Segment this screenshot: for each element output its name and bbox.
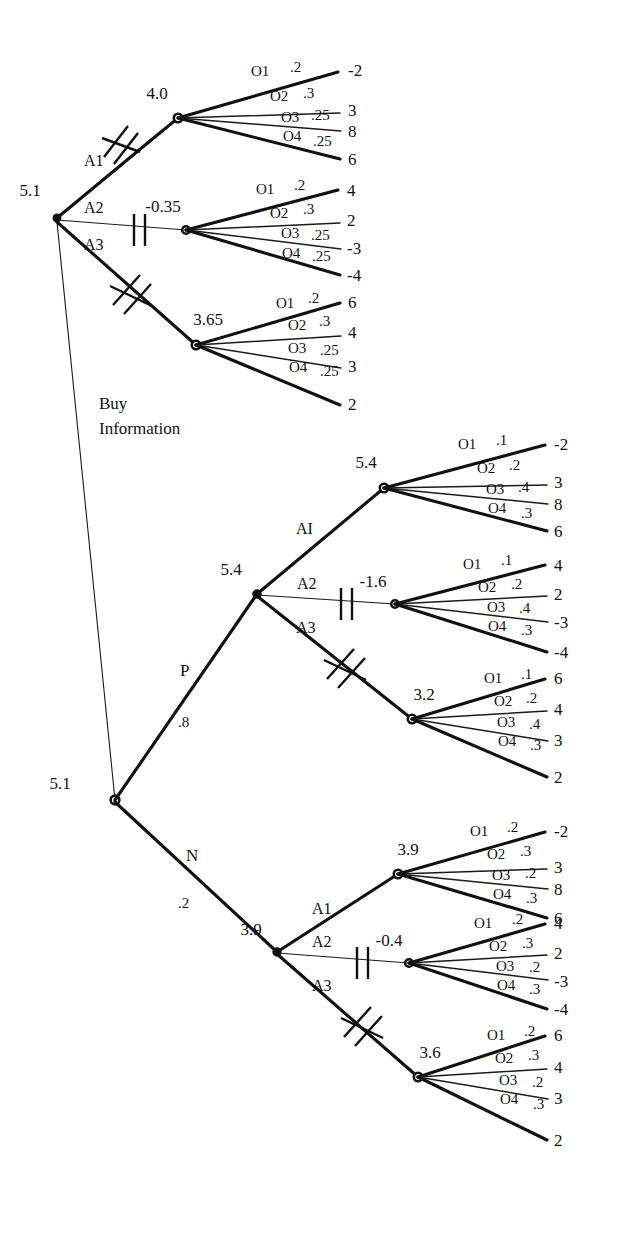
ev-label-p-a1-chance: 5.4 [355,453,377,472]
action-label-p-a1: AI [296,520,313,537]
outcome-label-n-a2-o2: O2 [489,938,507,954]
branch-state-p[interactable] [115,594,257,800]
branch-top-a2[interactable] [57,220,186,230]
prob-label-p-a1-o4: .3 [521,505,532,521]
payoff-top-a2-o2: 2 [347,211,356,230]
outcome-label-n-a3-o1: O1 [487,1027,505,1043]
outcome-label-top-a2-o2: O2 [270,205,288,221]
prob-label-n-a1-o2: .3 [520,843,531,859]
payoff-n-a2-o1: 4 [554,914,563,933]
payoff-top-a1-o4: 6 [348,150,357,169]
payoff-p-a1-o4: 6 [554,522,563,541]
prob-label-n-a2-o2: .3 [522,935,533,951]
payoff-p-a2-o2: 2 [554,585,563,604]
branch-n-a3[interactable] [277,954,418,1077]
outcome-label-n-a1-o3: O3 [492,867,510,883]
ev-label-p-decision: 5.4 [220,560,242,579]
prob-label-p-a1-o1: .1 [496,432,507,448]
payoff-top-a1-o1: -2 [348,61,362,80]
payoff-n-a1-o1: -2 [554,822,568,841]
branch-p-a2[interactable] [257,595,395,604]
state-label-n: N [186,846,198,865]
ev-label-n-decision: 3.9 [240,920,261,939]
outcome-branch-n-a2-o4[interactable] [409,963,547,1009]
outcome-label-p-a3-o1: O1 [484,670,502,686]
outcome-branch-p-a3-o4[interactable] [412,719,547,777]
prob-label-n-a3-o2: .3 [528,1047,539,1063]
outcome-label-p-a3-o4: O4 [498,733,517,749]
outcome-label-n-a2-o3: O3 [496,958,514,974]
root-trunk: Buy Information 5.1 [49,222,180,804]
prob-label-top-a3-o4: .25 [320,363,339,379]
outcome-label-top-a3-o1: O1 [276,295,294,311]
outcome-label-top-a1-o2: O2 [270,88,288,104]
payoff-top-a3-o4: 2 [348,395,357,414]
action-label-top-a3: A3 [84,236,104,253]
prob-label-p-a3-o1: .1 [521,666,532,682]
prune-mark-top-a1 [102,126,140,164]
prob-label-top-a2-o2: .3 [303,201,314,217]
prob-label-n-a2-o3: .2 [529,959,540,975]
payoff-top-a2-o1: 4 [347,181,356,200]
payoff-n-a3-o3: 3 [554,1089,563,1108]
ev-label-root-decision: 5.1 [49,774,70,793]
prob-label-p-a2-o3: .4 [519,600,531,616]
prob-label-top-a3-o2: .3 [319,313,330,329]
branch-p-a3[interactable] [257,596,412,719]
branch-buy-information[interactable] [57,222,115,800]
prob-label-state-p: .8 [178,714,189,730]
prob-label-p-a1-o3: .4 [518,479,530,495]
outcome-label-p-a3-o2: O2 [494,693,512,709]
prob-label-top-a3-o1: .2 [308,290,319,306]
outcome-label-top-a3-o2: O2 [288,317,306,333]
outcome-label-p-a2-o2: O2 [478,579,496,595]
payoff-p-a3-o1: 6 [554,669,563,688]
outcome-label-n-a1-o2: O2 [487,846,505,862]
payoff-p-a3-o4: 2 [554,768,563,787]
payoff-n-a3-o2: 4 [554,1058,563,1077]
payoff-n-a2-o4: -4 [554,1000,569,1019]
payoff-top-a2-o4: -4 [347,266,362,285]
payoff-n-a1-o3: 8 [554,880,563,899]
outcome-label-p-a1-o3: O3 [486,481,504,497]
outcome-label-n-a1-o4: O4 [493,886,512,902]
prob-label-p-a3-o3: .4 [529,716,541,732]
prob-label-top-a1-o2: .3 [303,85,314,101]
outcome-label-p-a3-o3: O3 [497,714,515,730]
outcome-label-p-a1-o4: O4 [488,500,507,516]
payoff-top-a2-o3: -3 [347,239,361,258]
outcome-branch-p-a3-o3[interactable] [412,719,548,741]
outcome-label-p-a2-o4: O4 [488,618,507,634]
outcome-label-top-a1-o3: O3 [281,109,299,125]
outcome-branch-n-a3-o4[interactable] [418,1077,547,1140]
prob-label-p-a3-o4: .3 [530,737,541,753]
outcome-label-top-a1-o4: O4 [283,128,302,144]
payoff-top-a3-o2: 4 [348,323,357,342]
ev-label-top-a1-chance: 4.0 [146,84,167,103]
action-label-p-a3: A3 [296,619,316,636]
outcome-label-n-a1-o1: O1 [470,823,488,839]
outcome-label-top-a2-o4: O4 [282,245,301,261]
outcome-branch-top-a3-o4[interactable] [196,345,340,405]
outcome-label-n-a3-o2: O2 [495,1050,513,1066]
payoff-n-a2-o3: -3 [554,972,568,991]
outcome-label-n-a3-o4: O4 [500,1091,519,1107]
payoff-p-a3-o3: 3 [554,731,563,750]
prob-label-n-a3-o3: .2 [532,1074,543,1090]
payoff-p-a1-o1: -2 [554,435,568,454]
prune-mark-top-a3 [110,275,152,314]
state-label-p: P [180,661,189,680]
outcome-label-n-a2-o1: O1 [474,915,492,931]
prob-label-n-a2-o1: .2 [512,911,523,927]
branch-n-a2[interactable] [277,953,409,963]
prob-label-top-a1-o1: .2 [290,59,301,75]
outcome-label-top-a2-o3: O3 [281,225,299,241]
branch-top-a3[interactable] [57,222,196,345]
ev-label-n-a1-chance: 3.9 [397,840,418,859]
prob-label-n-a3-o1: .2 [524,1023,535,1039]
prune-mark-p-a2 [341,588,352,620]
prob-label-p-a3-o2: .2 [526,690,537,706]
payoff-top-a3-o1: 6 [348,293,357,312]
prob-label-top-a1-o3: .25 [311,107,330,123]
action-label-n-a1: A1 [312,900,332,917]
